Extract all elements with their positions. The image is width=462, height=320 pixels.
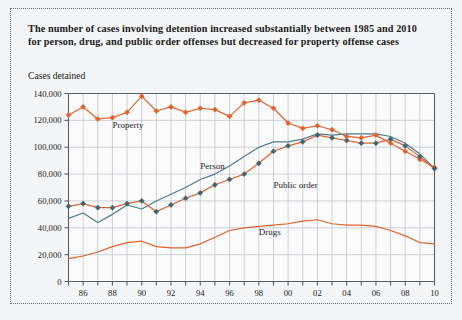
y-tick-label: 120,000 [34, 115, 62, 125]
y-tick-label: 0 [57, 277, 61, 287]
x-tick-label: 10 [430, 288, 439, 298]
y-tick-label: 60,000 [38, 196, 62, 206]
x-tick-label: 98 [255, 288, 264, 298]
x-tick-label: 04 [342, 288, 351, 298]
x-tick-label: 02 [313, 288, 322, 298]
chart-svg: 020,00040,00060,00080,000100,000120,0001… [0, 0, 462, 320]
series-label-public-order: Public order [273, 180, 317, 190]
x-tick-label: 94 [196, 288, 205, 298]
x-tick-label: 90 [137, 288, 146, 298]
x-tick-label: 00 [284, 288, 293, 298]
x-tick-label: 06 [372, 288, 381, 298]
y-tick-label: 100,000 [34, 142, 62, 152]
x-tick-label: 08 [401, 288, 410, 298]
series-label-property: Property [112, 120, 143, 130]
x-tick-label: 88 [108, 288, 117, 298]
x-tick-label: 92 [167, 288, 176, 298]
y-tick-label: 20,000 [38, 250, 62, 260]
series-label-drugs: Drugs [259, 227, 281, 237]
figure-container: The number of cases involving detention … [0, 0, 462, 320]
y-tick-label: 80,000 [38, 169, 62, 179]
x-tick-label: 96 [225, 288, 234, 298]
series-label-person: Person [200, 161, 225, 171]
y-tick-label: 140,000 [34, 89, 62, 99]
y-tick-label: 40,000 [38, 223, 62, 233]
plot-area: 020,00040,00060,00080,000100,000120,0001… [0, 0, 462, 320]
x-tick-label: 86 [79, 288, 88, 298]
